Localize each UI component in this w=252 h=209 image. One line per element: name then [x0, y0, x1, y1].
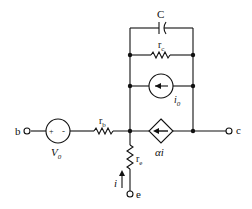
label-alpha-i: αi: [155, 147, 164, 158]
capacitor-C: [130, 22, 193, 34]
label-terminal-e: e: [136, 189, 141, 200]
label-plus: +: [49, 128, 54, 136]
terminal-b: [24, 128, 30, 134]
label-terminal-b: b: [15, 126, 21, 137]
circuit-diagram: C rc i0 + - V0 rb re αi i b c e: [0, 0, 252, 209]
label-re: re: [136, 154, 142, 167]
label-i0: i0: [174, 95, 180, 108]
terminal-e: [127, 191, 133, 197]
terminal-c: [226, 128, 232, 134]
label-rb: rb: [99, 116, 106, 129]
label-minus: -: [62, 127, 65, 136]
label-C: C: [157, 9, 164, 20]
label-V0: V0: [51, 147, 61, 161]
resistor-re: [127, 145, 133, 169]
label-current-i: i: [114, 178, 117, 189]
circuit-wires: [0, 0, 252, 209]
label-terminal-c: c: [236, 125, 241, 136]
current-source-i0: [130, 74, 193, 98]
label-rc: rc: [158, 40, 164, 53]
